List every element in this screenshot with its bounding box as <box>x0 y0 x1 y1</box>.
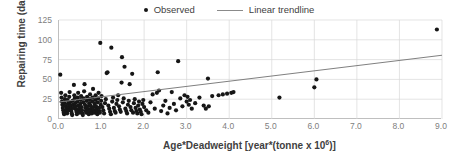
trendline-line-icon <box>217 10 243 11</box>
x-tick-label: 1.0 <box>86 122 116 131</box>
observed-marker-icon <box>144 8 148 12</box>
data-point <box>70 113 74 117</box>
data-point <box>133 97 137 101</box>
data-point <box>314 77 318 81</box>
data-point <box>165 111 169 115</box>
x-tick-label: 9.0 <box>426 122 456 131</box>
data-point <box>127 99 131 103</box>
y-axis-title: Repairing time (day) <box>16 0 27 94</box>
data-point <box>210 94 214 98</box>
data-point <box>216 93 220 97</box>
data-point <box>153 107 157 111</box>
y-tick-label: 125 <box>26 16 52 25</box>
data-point <box>197 96 201 100</box>
data-point <box>193 101 197 105</box>
data-point <box>435 27 439 31</box>
data-point <box>121 100 125 104</box>
scatter-chart: Observed Linear trendline Repairing time… <box>0 0 458 160</box>
data-point <box>277 96 281 100</box>
data-point <box>161 103 165 107</box>
trendline <box>59 55 442 102</box>
data-point <box>63 93 67 97</box>
data-point <box>99 99 103 103</box>
data-point <box>110 99 114 103</box>
data-point <box>58 73 62 77</box>
data-point <box>231 90 235 94</box>
data-point <box>115 98 119 102</box>
data-point <box>113 111 117 115</box>
data-point <box>76 91 80 95</box>
data-point <box>176 59 180 63</box>
data-point <box>128 82 132 86</box>
legend-label-observed: Observed <box>154 5 195 15</box>
data-point <box>225 92 229 96</box>
data-point <box>132 101 136 105</box>
x-tick-label: 5.0 <box>256 122 286 131</box>
data-point <box>151 92 155 96</box>
data-point <box>312 85 316 89</box>
chart-legend: Observed Linear trendline <box>0 0 458 20</box>
data-point <box>163 99 167 103</box>
plot-svg <box>59 20 442 119</box>
data-point <box>139 112 143 116</box>
data-point <box>174 108 178 112</box>
data-point <box>98 111 102 115</box>
data-point <box>122 65 126 69</box>
y-tick-label: 75 <box>26 56 52 65</box>
data-point <box>156 70 160 74</box>
data-point <box>119 110 123 114</box>
data-point <box>157 88 161 92</box>
data-point <box>98 41 102 45</box>
data-point <box>207 104 211 108</box>
x-tick-label: 3.0 <box>171 122 201 131</box>
data-point <box>130 72 134 76</box>
data-point <box>180 104 184 108</box>
data-point <box>82 82 86 86</box>
data-point <box>91 87 95 91</box>
x-tick-label: 0.0 <box>43 122 73 131</box>
data-point <box>136 103 140 107</box>
x-axis-title-tail: )] <box>329 140 336 151</box>
data-point <box>206 77 210 81</box>
data-point <box>188 98 192 102</box>
data-point <box>137 99 141 103</box>
data-point <box>105 70 109 74</box>
data-point <box>170 90 174 94</box>
data-point <box>82 89 86 93</box>
data-point <box>125 111 129 115</box>
y-tick-label: 50 <box>26 75 52 84</box>
y-tick-label: 100 <box>26 36 52 45</box>
data-point <box>172 102 176 106</box>
x-tick-label: 7.0 <box>341 122 371 131</box>
x-tick-label: 6.0 <box>298 122 328 131</box>
data-point <box>109 112 113 116</box>
data-point <box>102 111 106 115</box>
data-point <box>109 46 113 50</box>
legend-item-trendline: Linear trendline <box>217 5 315 15</box>
data-point <box>103 101 107 105</box>
data-point <box>68 90 72 94</box>
data-point <box>59 91 63 95</box>
data-point <box>111 96 115 100</box>
data-point <box>120 55 124 59</box>
data-point <box>178 96 182 100</box>
x-axis-title: Age*Deadweight [year*(tonne x 106)] <box>58 139 441 151</box>
data-point <box>221 92 225 96</box>
data-point <box>81 113 85 117</box>
x-axis-title-main: Age*Deadweight [year*(tonne x 10 <box>163 140 325 151</box>
data-point <box>141 98 145 102</box>
data-point <box>122 96 126 100</box>
data-point <box>159 109 163 113</box>
data-point <box>119 80 123 84</box>
x-tick-label: 2.0 <box>128 122 158 131</box>
data-point <box>104 97 108 101</box>
data-point <box>72 83 76 87</box>
data-point <box>146 111 150 115</box>
data-point <box>148 100 152 104</box>
x-tick-label: 8.0 <box>383 122 413 131</box>
data-point <box>187 103 191 107</box>
x-tick-label: 4.0 <box>213 122 243 131</box>
data-point <box>190 107 194 111</box>
data-point <box>67 95 71 99</box>
plot-area <box>58 20 441 119</box>
